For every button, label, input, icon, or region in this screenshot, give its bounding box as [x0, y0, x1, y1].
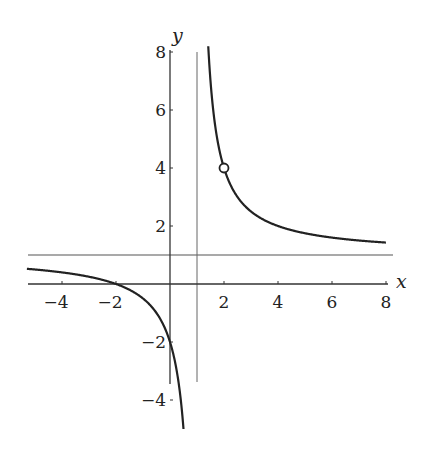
y-axis-label: y [171, 24, 183, 46]
rational-function-plot: −4−22468−4−22468xy [0, 0, 427, 453]
y-tick-label: 8 [155, 42, 166, 62]
y-tick-label: 6 [155, 100, 166, 120]
x-tick-label: −2 [97, 292, 122, 312]
right-branch-curve [208, 46, 386, 242]
tick-labels: −4−22468−4−22468xy [43, 24, 407, 410]
x-tick-label: −4 [43, 292, 68, 312]
curves [27, 46, 386, 429]
x-tick-label: 4 [273, 292, 284, 312]
x-axis-label: x [396, 270, 407, 292]
hole-point [220, 164, 229, 173]
y-tick-label: −4 [141, 390, 166, 410]
y-tick-label: 4 [155, 158, 166, 178]
y-tick-label: −2 [141, 332, 166, 352]
x-tick-label: 6 [327, 292, 338, 312]
x-tick-label: 2 [219, 292, 230, 312]
x-tick-label: 8 [381, 292, 392, 312]
y-tick-label: 2 [155, 216, 166, 236]
axes [28, 50, 393, 400]
